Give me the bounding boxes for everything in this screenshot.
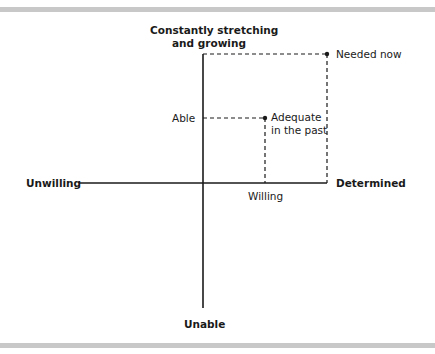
adequate-label-line2: in the past <box>271 124 327 136</box>
axis-top-label-line1: Constantly stretching <box>150 24 278 36</box>
willing-label: Willing <box>248 190 283 202</box>
needed-now-label: Needed now <box>336 48 402 60</box>
axis-right-label: Determined <box>336 177 406 189</box>
axis-bottom-label: Unable <box>184 318 225 330</box>
axis-left-label: Unwilling <box>26 177 81 189</box>
adequate-label-line1: Adequate <box>271 111 321 123</box>
able-label: Able <box>172 112 195 124</box>
axis-top-label-line2: and growing <box>172 37 246 49</box>
needed-now-point <box>325 52 329 56</box>
adequate-point <box>263 116 267 120</box>
